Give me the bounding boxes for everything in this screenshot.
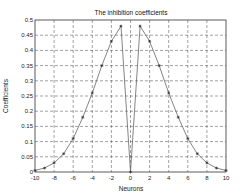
y-tick-label: 0.05 (21, 154, 33, 160)
y-tick-label: 0.5 (25, 17, 34, 23)
x-tick-label: 8 (205, 175, 209, 181)
x-tick-label: -4 (90, 175, 96, 181)
star-marker-icon (158, 64, 161, 67)
star-marker-icon (148, 40, 151, 43)
x-tick-label: 4 (167, 175, 171, 181)
star-marker-icon (119, 25, 122, 28)
star-marker-icon (139, 25, 142, 28)
y-tick-label: 0.4 (25, 47, 34, 53)
x-tick-label: 0 (129, 175, 133, 181)
star-marker-icon (110, 40, 113, 43)
star-marker-icon (186, 137, 189, 140)
y-tick-label: 0.35 (21, 63, 33, 69)
star-marker-icon (100, 64, 103, 67)
x-tick-label: 6 (186, 175, 190, 181)
x-tick-label: -10 (31, 175, 40, 181)
star-marker-icon (72, 137, 75, 140)
x-axis-label: Neurons (119, 185, 144, 192)
chart: The inhibition coefficients 00.050.10.15… (0, 0, 240, 196)
y-axis-label: Coefficients (2, 78, 9, 113)
star-marker-icon (205, 161, 208, 164)
y-tick-label: 0.25 (21, 93, 33, 99)
star-marker-icon (177, 116, 180, 119)
star-marker-icon (34, 169, 37, 172)
y-tick-label: 0.45 (21, 32, 33, 38)
grid (35, 20, 226, 172)
star-marker-icon (53, 161, 56, 164)
y-axis-ticks: 00.050.10.150.20.250.30.350.40.450.5 (21, 17, 33, 175)
star-marker-icon (81, 116, 84, 119)
star-marker-icon (196, 152, 199, 155)
y-tick-label: 0.2 (25, 108, 34, 114)
x-tick-label: -2 (109, 175, 115, 181)
star-marker-icon (215, 167, 218, 170)
star-marker-icon (62, 152, 65, 155)
star-marker-icon (225, 169, 228, 172)
x-tick-label: 2 (148, 175, 152, 181)
chart-title: The inhibition coefficients (95, 9, 169, 16)
star-marker-icon (167, 91, 170, 94)
star-marker-icon (91, 91, 94, 94)
x-axis-ticks: -10-8-6-4-20246810 (31, 175, 230, 181)
x-tick-label: 10 (223, 175, 230, 181)
y-tick-label: 0.3 (25, 78, 34, 84)
x-tick-label: -8 (51, 175, 57, 181)
star-marker-icon (129, 171, 132, 174)
y-tick-label: 0.15 (21, 123, 33, 129)
x-tick-label: -6 (71, 175, 77, 181)
star-marker-icon (43, 167, 46, 170)
y-tick-label: 0.1 (25, 139, 34, 145)
